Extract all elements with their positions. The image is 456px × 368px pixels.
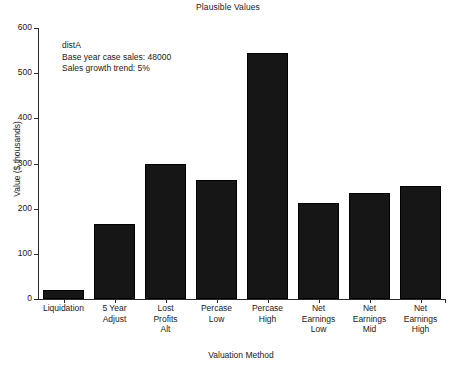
x-axis-label: Valuation Method (36, 350, 446, 360)
bar-chart-figure: Plausible Values Value ($ thousands) 010… (0, 0, 456, 368)
y-tick-label: 400 (18, 112, 32, 122)
x-tick-label: PercaseLow (191, 303, 242, 324)
annotation-line-growth: Sales growth trend: 5% (62, 63, 171, 75)
x-tick-label: LostProfitsAlt (140, 303, 191, 335)
x-axis-category-labels: Liquidation5 YearAdjustLostProfitsAltPer… (38, 303, 446, 349)
annotation-line-base-sales: Base year case sales: 48000 (62, 52, 171, 64)
bar (298, 203, 339, 299)
y-tick-label: 200 (18, 203, 32, 213)
bar (43, 290, 84, 299)
annotation-textbox: distA Base year case sales: 48000 Sales … (62, 40, 171, 75)
y-tick-label: 600 (18, 22, 32, 32)
y-tick-label: 0 (27, 293, 32, 303)
x-tick-label: 5 YearAdjust (89, 303, 140, 324)
bar (145, 164, 186, 300)
bar (349, 193, 390, 299)
x-axis-spine (38, 299, 446, 300)
x-tick-label: NetEarningsHigh (395, 303, 446, 335)
chart-title: Plausible Values (0, 2, 456, 12)
y-tick-label: 500 (18, 67, 32, 77)
y-tick-label: 300 (18, 158, 32, 168)
y-tick-label: 100 (18, 248, 32, 258)
x-tick-label: NetEarningsLow (293, 303, 344, 335)
bar (400, 186, 441, 299)
bar (247, 53, 288, 299)
y-tick-mark (34, 299, 39, 300)
annotation-line-dist: distA (62, 40, 171, 52)
bar (94, 224, 135, 299)
x-tick-label: NetEarningsMid (344, 303, 395, 335)
x-tick-label: Liquidation (38, 303, 89, 314)
bar (196, 180, 237, 299)
x-tick-label: PercaseHigh (242, 303, 293, 324)
